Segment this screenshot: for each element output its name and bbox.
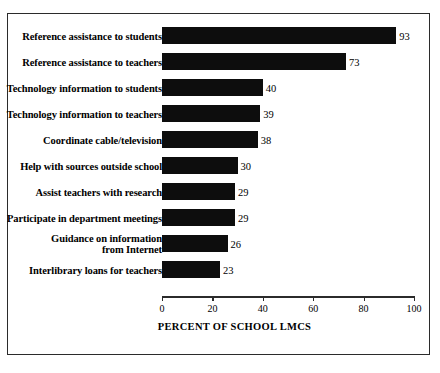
- bar: [162, 79, 263, 96]
- bar: [162, 53, 346, 70]
- bar-category-label: Reference assistance to students: [0, 23, 162, 49]
- bar-category-label: Technology information to students: [0, 75, 162, 101]
- bar-category-label: Reference assistance to teachers: [0, 49, 162, 75]
- bar-row: Technology information to teachers39: [8, 101, 431, 127]
- bar-track: 38: [162, 131, 414, 148]
- x-axis-tick-label: 80: [359, 303, 369, 314]
- bar-rows: Reference assistance to students93Refere…: [8, 23, 431, 283]
- bar-value-label: 29: [235, 186, 249, 197]
- bar-category-label: Technology information to teachers: [0, 101, 162, 127]
- bar-value-label: 93: [396, 30, 410, 41]
- bar: [162, 209, 235, 226]
- x-axis-tick: [162, 296, 163, 301]
- bar-track: 93: [162, 27, 414, 44]
- cropped-header-remnant: [8, 0, 128, 8]
- bar-value-label: 30: [238, 160, 252, 171]
- bar-row: Assist teachers with research29: [8, 179, 431, 205]
- bar-row: Guidance on information from Internet26: [8, 231, 431, 257]
- bar-value-label: 39: [260, 108, 274, 119]
- bar: [162, 27, 396, 44]
- bar-row: Technology information to students40: [8, 75, 431, 101]
- bar-track: 29: [162, 209, 414, 226]
- x-axis-tick-label: 0: [160, 303, 165, 314]
- chart-figure: Reference assistance to students93Refere…: [0, 0, 440, 373]
- x-axis-tick: [364, 296, 365, 301]
- x-axis-line: [162, 296, 414, 298]
- bar-value-label: 40: [263, 82, 277, 93]
- x-axis-tick: [263, 296, 264, 301]
- bar-track: 73: [162, 53, 414, 70]
- bar-value-label: 23: [220, 264, 234, 275]
- bar-value-label: 29: [235, 212, 249, 223]
- bar-track: 26: [162, 235, 414, 252]
- x-axis-tick-label: 40: [258, 303, 268, 314]
- bar-row: Reference assistance to teachers73: [8, 49, 431, 75]
- bar: [162, 235, 228, 252]
- x-axis-tick: [212, 296, 213, 301]
- bar-track: 30: [162, 157, 414, 174]
- bar-value-label: 38: [258, 134, 272, 145]
- bar-row: Help with sources outside school30: [8, 153, 431, 179]
- bar-category-label: Coordinate cable/television: [0, 127, 162, 153]
- bar-row: Participate in department meetings29: [8, 205, 431, 231]
- x-axis-tick: [313, 296, 314, 301]
- bar-track: 40: [162, 79, 414, 96]
- bar: [162, 157, 238, 174]
- bar-track: 29: [162, 183, 414, 200]
- x-axis-tick-label: 100: [407, 303, 422, 314]
- bar: [162, 183, 235, 200]
- bar: [162, 131, 258, 148]
- figure-border: Reference assistance to students93Refere…: [7, 13, 430, 355]
- x-axis-title: PERCENT OF SCHOOL LMCS: [8, 321, 431, 332]
- bar-category-label: Interlibrary loans for teachers: [0, 257, 162, 283]
- bar-category-label: Guidance on information from Internet: [0, 231, 162, 257]
- bar-row: Reference assistance to students93: [8, 23, 431, 49]
- bar-value-label: 26: [228, 238, 242, 249]
- x-axis-tick: [414, 296, 415, 301]
- bar-category-label: Help with sources outside school: [0, 153, 162, 179]
- bar-category-label: Participate in department meetings: [0, 205, 162, 231]
- bar-row: Coordinate cable/television38: [8, 127, 431, 153]
- bar-value-label: 73: [346, 56, 360, 67]
- bar-category-label: Assist teachers with research: [0, 179, 162, 205]
- x-axis-tick-label: 20: [207, 303, 217, 314]
- bar-track: 23: [162, 261, 414, 278]
- bar-row: Interlibrary loans for teachers23: [8, 257, 431, 283]
- bar: [162, 261, 220, 278]
- x-axis-tick-label: 60: [308, 303, 318, 314]
- plot-area: Reference assistance to students93Refere…: [8, 14, 431, 356]
- bar: [162, 105, 260, 122]
- bar-track: 39: [162, 105, 414, 122]
